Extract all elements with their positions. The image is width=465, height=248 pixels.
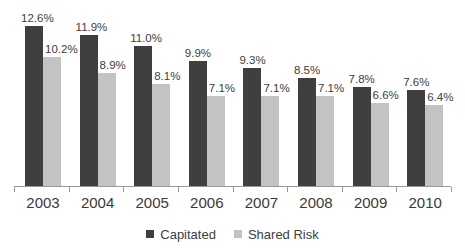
x-axis-label: 2003 (16, 193, 70, 213)
bar-group: 7.6%6.4% (407, 25, 443, 187)
legend-label-capitated: Capitated (160, 227, 216, 242)
bar-shared-risk (207, 96, 225, 187)
x-axis-label: 2009 (344, 193, 398, 213)
x-axis-label: 2004 (71, 193, 125, 213)
bar-group: 8.5%7.1% (298, 25, 334, 187)
data-label-capitated: 11.0% (130, 32, 156, 45)
data-label-capitated: 8.5% (294, 64, 320, 77)
x-axis-category-labels: 20032004200520062007200820092010 (0, 193, 465, 217)
bar-shared-risk (98, 73, 116, 187)
bar-group: 11.0%8.1% (134, 25, 170, 187)
legend-swatch-shared-risk (234, 230, 242, 238)
bar-capitated (298, 78, 316, 187)
legend-label-shared-risk: Shared Risk (248, 227, 319, 242)
legend-item-shared-risk: Shared Risk (234, 227, 319, 242)
bar-capitated (25, 26, 43, 187)
data-label-shared-risk: 10.2% (45, 43, 79, 56)
bar-shared-risk (152, 84, 170, 188)
bar-shared-risk (425, 105, 443, 187)
bar-capitated (80, 35, 98, 187)
data-label-shared-risk: 6.4% (427, 91, 461, 104)
bar-group: 12.6%10.2% (25, 25, 61, 187)
x-axis-label: 2008 (289, 193, 343, 213)
x-axis-label: 2010 (398, 193, 452, 213)
bar-capitated (189, 61, 207, 188)
x-axis-tick (178, 187, 179, 192)
data-label-shared-risk: 8.1% (154, 70, 188, 83)
chart-legend: Capitated Shared Risk (0, 223, 465, 245)
bar-shared-risk (261, 96, 279, 187)
x-axis-tick (342, 187, 343, 192)
x-axis-tick (233, 187, 234, 192)
data-label-shared-risk: 7.1% (318, 82, 352, 95)
x-axis-tick (287, 187, 288, 192)
bar-group: 9.9%7.1% (189, 25, 225, 187)
legend-item-capitated: Capitated (146, 227, 216, 242)
plot-area: 12.6%10.2%11.9%8.9%11.0%8.1%9.9%7.1%9.3%… (0, 0, 465, 187)
x-axis-tick (14, 187, 15, 192)
data-label-capitated: 9.3% (239, 54, 265, 67)
data-label-capitated: 7.6% (403, 76, 429, 89)
data-label-shared-risk: 6.6% (373, 89, 407, 102)
x-axis-tick (69, 187, 70, 192)
data-label-shared-risk: 7.1% (263, 82, 297, 95)
data-label-capitated: 9.9% (185, 47, 211, 60)
data-label-capitated: 11.9% (76, 21, 102, 34)
bar-group: 9.3%7.1% (243, 25, 279, 187)
data-label-capitated: 7.8% (349, 73, 375, 86)
data-label-shared-risk: 8.9% (100, 59, 134, 72)
data-label-capitated: 12.6% (21, 12, 47, 25)
bar-capitated (243, 68, 261, 187)
bar-shared-risk (43, 57, 61, 187)
data-label-shared-risk: 7.1% (209, 82, 243, 95)
x-axis-label: 2007 (234, 193, 288, 213)
bar-group: 11.9%8.9% (80, 25, 116, 187)
x-axis-label: 2005 (125, 193, 179, 213)
x-axis-tick (451, 187, 452, 192)
legend-swatch-capitated (146, 230, 154, 238)
x-axis-tick (396, 187, 397, 192)
x-axis-tick (123, 187, 124, 192)
bar-capitated (134, 46, 152, 187)
bar-shared-risk (316, 96, 334, 187)
bar-chart: 12.6%10.2%11.9%8.9%11.0%8.1%9.9%7.1%9.3%… (0, 0, 465, 248)
x-axis-label: 2006 (180, 193, 234, 213)
bar-group: 7.8%6.6% (353, 25, 389, 187)
bar-shared-risk (371, 103, 389, 187)
bar-capitated (353, 87, 371, 187)
bar-capitated (407, 90, 425, 187)
